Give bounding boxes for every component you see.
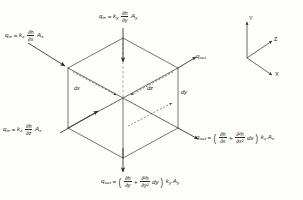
- q-in-y-equals: =: [108, 14, 112, 21]
- q-out-y-differential: dy: [152, 179, 159, 186]
- q-out-y-plus: +: [134, 179, 138, 186]
- label-q-in-x: qin = kx ∂h ∂x Ax: [5, 30, 44, 42]
- q-in-y-subscript: in: [103, 15, 107, 20]
- q-out-x-area-subscript: x: [272, 136, 274, 141]
- q-in-z-k-subscript: z: [20, 128, 22, 133]
- arrow-q-in-x: [28, 43, 65, 66]
- q-out-x-plus: +: [229, 135, 233, 142]
- q-in-x-equals: =: [14, 33, 18, 40]
- q-out-x-subscript: out: [200, 136, 206, 141]
- q-in-z-subscript: in: [7, 128, 11, 133]
- label-q-in-y: qin = ky ∂h ∂y Ay: [99, 11, 138, 23]
- q-out-z-subscript: out: [200, 55, 206, 60]
- q-in-y-gradient: ∂h ∂y: [121, 11, 129, 23]
- q-out-y-equals: =: [113, 179, 117, 186]
- arrow-q-out-z: [178, 57, 196, 68]
- axis-label-y: Y: [249, 15, 253, 21]
- measure-arrow-dx: [73, 72, 116, 95]
- q-in-x-subscript: in: [9, 34, 13, 39]
- q-in-x-grad-den: ∂x: [27, 35, 34, 42]
- q-in-y-grad-den: ∂y: [121, 16, 128, 23]
- q-in-y-k-subscript: y: [116, 15, 118, 20]
- axis-label-z: Z: [274, 36, 277, 42]
- q-out-x-equals: =: [208, 135, 212, 142]
- label-q-out-y: qout = ( ∂h ∂y + ∂²h ∂y² dy ) ky Ay: [101, 176, 179, 188]
- q-out-x-k-subscript: x: [264, 136, 266, 141]
- q-in-x-gradient: ∂h ∂x: [27, 30, 35, 42]
- arrow-q-in-z: [60, 111, 98, 133]
- q-out-x-differential: dx: [247, 135, 254, 142]
- q-out-y-k-subscript: y: [169, 180, 171, 185]
- axis-triad: [247, 22, 272, 75]
- q-out-x-term2: ∂²h ∂x²: [235, 132, 244, 144]
- q-out-x-term1-den: ∂x: [219, 137, 226, 144]
- q-out-y-term1: ∂h ∂y: [124, 176, 132, 188]
- q-in-z-gradient: ∂h ∂z: [25, 124, 33, 136]
- label-dz: dz: [147, 85, 153, 91]
- measure-arrow-dz-lower: [128, 103, 172, 126]
- q-out-y-term2: ∂²h ∂y²: [140, 176, 149, 188]
- axis-label-x: X: [275, 71, 279, 77]
- q-out-y-area-subscript: y: [177, 180, 179, 185]
- cube-line-art: [0, 0, 303, 200]
- label-dx: dx: [74, 85, 80, 91]
- q-out-y-subscript: out: [105, 180, 111, 185]
- label-q-in-z: qin = kz ∂h ∂z Az: [3, 124, 42, 136]
- q-in-z-equals: =: [12, 127, 16, 134]
- figure-canvas: qin = kx ∂h ∂x Ax qin = ky ∂h ∂y Ay qin …: [0, 0, 303, 200]
- q-out-y-term1-den: ∂y: [124, 181, 131, 188]
- q-in-z-grad-den: ∂z: [25, 129, 32, 136]
- label-q-out-z: qout: [196, 53, 206, 60]
- q-in-x-area-subscript: x: [41, 34, 43, 39]
- q-out-x-term2-den: ∂x²: [235, 137, 244, 144]
- q-in-z-area-subscript: z: [39, 128, 41, 133]
- label-dy: dy: [181, 89, 187, 95]
- measure-arrow-dz: [131, 72, 173, 95]
- q-in-y-area-subscript: y: [135, 15, 137, 20]
- q-out-y-term2-den: ∂y²: [140, 181, 149, 188]
- q-in-x-k-subscript: x: [22, 34, 24, 39]
- q-out-x-term1: ∂h ∂x: [219, 132, 227, 144]
- arrow-q-out-x: [178, 128, 198, 139]
- label-q-out-x: qout = ( ∂h ∂x + ∂²h ∂x² dx ) kx Ax: [196, 132, 274, 144]
